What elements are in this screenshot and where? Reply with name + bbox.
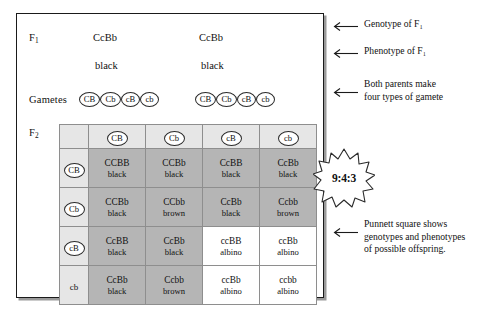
cell-genotype: Ccbb — [146, 275, 202, 286]
cell-genotype: CcBB — [203, 158, 259, 169]
parent1-genotype: CcBb — [93, 32, 117, 43]
punnett-cell: Ccbb brown — [146, 266, 203, 305]
annotation-text-line: of possible offspring. — [364, 243, 465, 256]
gametes-label: Gametes — [29, 94, 67, 105]
cell-phenotype: albino — [203, 286, 259, 296]
gamete-circle: cb — [140, 92, 159, 107]
f2-generation-label: F2 — [29, 127, 39, 140]
cell-genotype: CcBB — [89, 236, 145, 247]
cell-genotype: ccBb — [260, 236, 316, 247]
annotation-text-line: Punnett square shows — [364, 218, 465, 231]
punnett-cell: CcBb black — [89, 266, 146, 305]
gamete-circle: CB — [64, 163, 85, 178]
gamete-circle: CB — [79, 92, 100, 107]
annotation-genotype-f1: Genotype of F₁ — [331, 18, 423, 32]
gamete-circle: cB — [64, 241, 85, 256]
punnett-cell: CCBb black — [89, 188, 146, 227]
parent2-gamete-set: CB Cb cB cb — [195, 92, 275, 107]
punnett-cell: ccBb albino — [260, 227, 317, 266]
punnett-cell: CcBb black — [146, 227, 203, 266]
left-arrow-icon — [331, 227, 359, 238]
cell-genotype: CCbb — [146, 197, 202, 208]
gamete-circle: cB — [121, 92, 140, 107]
cell-phenotype: albino — [260, 247, 316, 257]
parent1-gamete-set: CB Cb cB cb — [79, 92, 159, 107]
punnett-cell: ccbb albino — [260, 266, 317, 305]
gamete-circle: cB — [221, 131, 242, 146]
cell-phenotype: brown — [146, 286, 202, 296]
parent2-genotype: CcBb — [199, 32, 223, 43]
punnett-square: CB Cb cB cb CB CCBB black CCBb black — [59, 124, 317, 305]
cell-genotype: CCBb — [89, 197, 145, 208]
left-arrow-icon — [331, 87, 359, 98]
left-arrow-icon — [331, 48, 359, 59]
gamete-circle: Cb — [164, 131, 185, 146]
gamete-circle: CB — [195, 92, 216, 107]
cell-phenotype: albino — [203, 247, 259, 257]
punnett-header-row: CB Cb cB cb — [60, 125, 317, 149]
punnett-row: cB CcBB black CcBb black ccBB albino ccB… — [60, 227, 317, 266]
gamete-circle: Cb — [216, 92, 237, 107]
punnett-cell: CcBB black — [89, 227, 146, 266]
punnett-corner-cell — [60, 125, 89, 149]
punnett-row-header: cB — [60, 227, 89, 266]
cell-phenotype: black — [203, 208, 259, 218]
cell-phenotype: black — [146, 247, 202, 257]
parent1-phenotype: black — [95, 60, 118, 71]
f1-generation-label: F1 — [29, 32, 39, 45]
cell-genotype: CCBb — [146, 158, 202, 169]
annotation-gamete-types: Both parents make four types of gamete — [331, 78, 443, 103]
cell-phenotype: black — [203, 169, 259, 179]
gamete-circle: cb — [278, 131, 299, 146]
punnett-cell: CCBB black — [89, 149, 146, 188]
punnett-cell: ccBb albino — [203, 266, 260, 305]
punnett-column-header: CB — [89, 125, 146, 149]
annotation-text: Genotype of F₁ — [364, 18, 423, 31]
cell-phenotype: black — [89, 169, 145, 179]
cell-phenotype: black — [89, 247, 145, 257]
ratio-text: 9:4:3 — [313, 148, 375, 208]
cell-phenotype: black — [260, 169, 316, 179]
cell-genotype: CcBb — [203, 197, 259, 208]
punnett-row: CB CCBB black CCBb black CcBB black CcBb… — [60, 149, 317, 188]
cell-phenotype: black — [89, 208, 145, 218]
parent2-phenotype: black — [201, 60, 224, 71]
punnett-row-header: Cb — [60, 188, 89, 227]
punnett-row: cb CcBb black Ccbb brown ccBb albino ccb… — [60, 266, 317, 305]
punnett-column-header: Cb — [146, 125, 203, 149]
annotation-punnett-explanation: Punnett square shows genotypes and pheno… — [331, 218, 465, 256]
punnett-cell: CCBb black — [146, 149, 203, 188]
ratio-starburst-badge: 9:4:3 — [313, 148, 375, 208]
cell-phenotype: black — [89, 286, 145, 296]
punnett-cell: ccBB albino — [203, 227, 260, 266]
annotation-text-block: Both parents make four types of gamete — [364, 78, 443, 103]
annotation-text-line: genotypes and phenotypes — [364, 231, 465, 244]
gamete-circle: cB — [237, 92, 256, 107]
annotation-text-block: Punnett square shows genotypes and pheno… — [364, 218, 465, 256]
punnett-column-header: cB — [203, 125, 260, 149]
cell-genotype: Ccbb — [260, 197, 316, 208]
punnett-row-header: CB — [60, 149, 89, 188]
punnett-row: Cb CCBb black CCbb brown CcBb black Ccbb… — [60, 188, 317, 227]
punnett-cell: CCbb brown — [146, 188, 203, 227]
gamete-label: cb — [70, 282, 79, 292]
cell-genotype: ccBB — [203, 236, 259, 247]
punnett-column-header: cb — [260, 125, 317, 149]
cell-phenotype: black — [146, 169, 202, 179]
punnett-row-header: cb — [60, 266, 89, 305]
punnett-cell: CcBb black — [203, 188, 260, 227]
gamete-circle: CB — [107, 131, 128, 146]
gamete-circle: Cb — [64, 202, 85, 217]
cell-genotype: CCBB — [89, 158, 145, 169]
annotation-text-line: Both parents make — [364, 78, 443, 91]
cell-genotype: ccbb — [260, 275, 316, 286]
cell-genotype: CcBb — [260, 158, 316, 169]
cell-phenotype: brown — [146, 208, 202, 218]
punnett-cell: CcBb black — [260, 149, 317, 188]
annotation-text: Phenotype of F₁ — [364, 45, 426, 58]
cell-phenotype: albino — [260, 286, 316, 296]
cell-phenotype: brown — [260, 208, 316, 218]
cell-genotype: ccBb — [203, 275, 259, 286]
annotation-text-line: four types of gamete — [364, 91, 443, 104]
punnett-cell: CcBB black — [203, 149, 260, 188]
